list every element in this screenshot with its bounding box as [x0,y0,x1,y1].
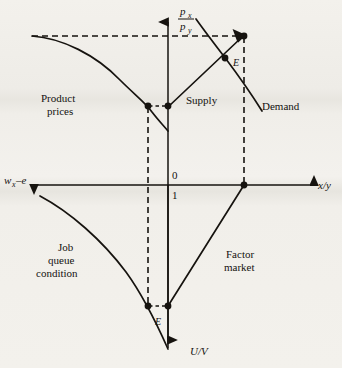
wage-label-main: w [4,174,12,186]
product-prices-label: Product prices [41,92,75,117]
point-price-axis [165,103,172,110]
product-prices-line-2: prices [47,105,73,117]
demand-label: Demand [262,100,300,112]
job-queue-label: Job queue condition [36,241,78,279]
point-top-right [241,33,248,40]
origin-upper-label: 0 [172,169,178,181]
economics-four-quadrant-diagram: p x p y U/V x/y w x –e 0 1 [0,0,342,368]
price-ratio-denominator: p [179,20,186,32]
equilibrium-lower-label: E [154,316,161,327]
factor-market-line-2: market [224,261,255,273]
vertical-axis-bottom-label: U/V [190,345,209,357]
horizontal-axis-right-label: x/y [317,179,331,191]
price-ratio-numerator: p [179,5,186,17]
point-product-prices [145,103,152,110]
figure-page: p x p y U/V x/y w x –e 0 1 [0,0,342,368]
supply-label: Supply [186,94,218,106]
wage-label-tail: –e [15,174,27,186]
job-queue-line-1: Job [58,241,74,253]
factor-market-label: Factor market [224,248,255,273]
origin-lower-label: 1 [172,189,178,201]
point-equilibrium-lower [165,303,172,310]
horizontal-axis-left-label: w x –e [4,174,27,189]
point-equilibrium-upper [222,55,229,62]
factor-market-line [168,185,244,306]
price-ratio-denominator-subscript: y [187,26,192,35]
job-queue-line-2: queue [48,254,74,266]
factor-market-line-1: Factor [226,248,254,260]
job-queue-line-3: condition [36,267,78,279]
product-prices-line-1: Product [41,92,75,104]
point-job-queue [145,303,152,310]
point-quantity-axis [241,182,248,189]
equilibrium-upper-label: E [232,57,239,68]
vertical-axis-top-label: p x p y [178,5,194,35]
